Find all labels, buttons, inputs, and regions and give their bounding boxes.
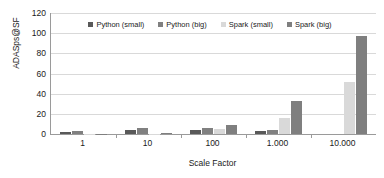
- bar[interactable]: [125, 130, 136, 134]
- bar[interactable]: [214, 129, 225, 134]
- legend-label: Python (big): [166, 20, 206, 29]
- bar[interactable]: [72, 131, 83, 134]
- legend-label: Spark (small): [229, 20, 273, 29]
- bar[interactable]: [60, 132, 71, 134]
- bar[interactable]: [137, 128, 148, 134]
- bar-groups: [51, 13, 376, 134]
- x-tick-label: 10: [115, 138, 180, 148]
- y-tick-label: 20: [20, 109, 46, 119]
- x-tick-label: 1.000: [245, 138, 310, 148]
- y-tick-label: 100: [20, 28, 46, 38]
- y-tick-label: 120: [20, 8, 46, 18]
- bar-group: [181, 13, 246, 134]
- x-axis-title: Scale Factor: [50, 158, 375, 168]
- bar[interactable]: [190, 130, 201, 134]
- bar[interactable]: [267, 130, 278, 134]
- y-tick-label: 40: [20, 89, 46, 99]
- y-tick-label: 0: [20, 129, 46, 139]
- legend-swatch-icon: [221, 22, 226, 27]
- bar[interactable]: [344, 82, 355, 134]
- x-tick-label: 100: [180, 138, 245, 148]
- y-tick-label: 60: [20, 69, 46, 79]
- bar[interactable]: [255, 131, 266, 134]
- legend-item[interactable]: Python (big): [158, 20, 206, 29]
- bar[interactable]: [161, 133, 172, 135]
- x-axis-tick-labels: 1101001.00010.000: [50, 138, 375, 148]
- bar-group: [246, 13, 311, 134]
- chart-legend: Python (small)Python (big)Spark (small)S…: [60, 20, 360, 29]
- bar[interactable]: [202, 128, 213, 134]
- y-tick-label: 80: [20, 48, 46, 58]
- bar-chart: ADASps@SF 120100806040200 1101001.00010.…: [0, 0, 384, 178]
- x-tick-label: 1: [50, 138, 115, 148]
- legend-item[interactable]: Spark (small): [221, 20, 273, 29]
- bar[interactable]: [279, 118, 290, 134]
- legend-swatch-icon: [287, 22, 292, 27]
- legend-label: Spark (big): [295, 20, 332, 29]
- legend-swatch-icon: [158, 22, 163, 27]
- legend-swatch-icon: [88, 22, 93, 27]
- x-tick-label: 10.000: [310, 138, 375, 148]
- legend-item[interactable]: Python (small): [88, 20, 144, 29]
- plot-area: [50, 13, 376, 135]
- bar-group: [116, 13, 181, 134]
- bar[interactable]: [226, 125, 237, 134]
- bar-group: [311, 13, 376, 134]
- y-axis-tick-labels: 120100806040200: [20, 8, 46, 140]
- legend-label: Python (small): [96, 20, 144, 29]
- legend-item[interactable]: Spark (big): [287, 20, 332, 29]
- bar[interactable]: [356, 36, 367, 134]
- bar[interactable]: [291, 101, 302, 134]
- bar-group: [51, 13, 116, 134]
